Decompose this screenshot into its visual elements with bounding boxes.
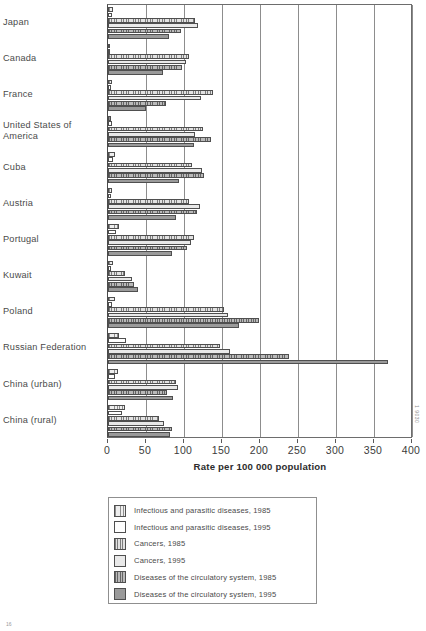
- category-label-portugal: Portugal: [3, 234, 39, 245]
- x-tick-label-350: 350: [364, 444, 382, 456]
- bar: [108, 396, 173, 401]
- bar: [108, 251, 172, 256]
- x-tick-label-150: 150: [212, 444, 230, 456]
- x-tick-label-0: 0: [104, 444, 110, 456]
- bar: [108, 338, 126, 343]
- legend-swatch: [114, 538, 126, 550]
- bar: [108, 405, 125, 410]
- bar: [108, 168, 202, 173]
- bar-groups: [108, 5, 411, 437]
- bar: [108, 432, 170, 437]
- bar: [108, 318, 259, 323]
- bar: [108, 85, 111, 90]
- bar: [108, 354, 289, 359]
- legend-item: Infectious and parasitic diseases, 1985: [114, 502, 271, 519]
- bar-group: [108, 77, 411, 113]
- bar: [108, 137, 211, 142]
- bar: [108, 230, 116, 235]
- bar: [108, 163, 192, 168]
- bar: [108, 70, 163, 75]
- x-tick-200: [259, 439, 260, 443]
- bar: [108, 411, 122, 416]
- category-label-russian-federation: Russian Federation: [3, 342, 86, 353]
- bar-group: [108, 367, 411, 403]
- bar: [108, 199, 189, 204]
- bar: [108, 360, 388, 365]
- x-tick-100: [183, 439, 184, 443]
- bar: [108, 204, 200, 209]
- bar: [108, 188, 112, 193]
- bar: [108, 349, 230, 354]
- bar: [108, 297, 115, 302]
- legend-swatch: [114, 555, 126, 567]
- bar: [108, 49, 110, 54]
- bar: [108, 34, 169, 39]
- category-label-japan: Japan: [3, 17, 29, 28]
- bar: [108, 307, 224, 312]
- bar: [108, 246, 187, 251]
- bar-group: [108, 258, 411, 294]
- legend-label: Cancers, 1985: [134, 539, 185, 548]
- legend-swatch: [114, 505, 126, 517]
- bar-group: [108, 331, 411, 367]
- bar: [108, 152, 115, 157]
- plot-area-wrapper: JapanCanadaFranceUnited States of Americ…: [0, 0, 426, 470]
- bar-group: [108, 186, 411, 222]
- category-label-united-states-of: United States of America: [3, 120, 72, 141]
- bar-group: [108, 294, 411, 330]
- bar: [108, 96, 201, 101]
- bar: [108, 282, 134, 287]
- bar: [108, 302, 112, 307]
- bar-group: [108, 222, 411, 258]
- legend-swatch: [114, 588, 126, 600]
- bar-group: [108, 403, 411, 439]
- bar: [108, 235, 194, 240]
- bar: [108, 106, 146, 111]
- bar: [108, 194, 111, 199]
- bar: [108, 23, 198, 28]
- bar: [108, 80, 112, 85]
- bar-group: [108, 5, 411, 41]
- category-label-france: France: [3, 89, 33, 100]
- chart-root: JapanCanadaFranceUnited States of Americ…: [0, 0, 426, 631]
- bar: [108, 18, 195, 23]
- legend-swatch: [114, 571, 126, 583]
- bar: [108, 65, 182, 70]
- x-tick-label-100: 100: [174, 444, 192, 456]
- x-tick-400: [411, 439, 412, 443]
- bar: [108, 60, 186, 65]
- category-label-poland: Poland: [3, 306, 33, 317]
- bar: [108, 427, 172, 432]
- bar: [108, 277, 132, 282]
- legend-item: Diseases of the circulatory system, 1995: [114, 586, 276, 603]
- category-label-cuba: Cuba: [3, 162, 26, 173]
- bar: [108, 390, 167, 395]
- bar: [108, 323, 239, 328]
- page-number: 16: [6, 621, 12, 627]
- bar: [108, 121, 112, 126]
- legend-item: Cancers, 1985: [114, 535, 185, 552]
- bar: [108, 157, 113, 162]
- bar: [108, 374, 115, 379]
- bar: [108, 421, 164, 426]
- bar-group: [108, 150, 411, 186]
- bar: [108, 143, 194, 148]
- x-tick-label-200: 200: [250, 444, 268, 456]
- bar: [108, 7, 113, 12]
- legend-item: Diseases of the circulatory system, 1985: [114, 569, 276, 586]
- bar: [108, 44, 110, 49]
- bar: [108, 179, 179, 184]
- legend-item: Cancers, 1995: [114, 552, 185, 569]
- bar: [108, 261, 113, 266]
- x-tick-250: [297, 439, 298, 443]
- x-tick-label-50: 50: [139, 444, 151, 456]
- bar: [108, 90, 213, 95]
- category-label-canada: Canada: [3, 53, 36, 64]
- bar: [108, 127, 203, 132]
- bar: [108, 369, 118, 374]
- plot-area: [107, 4, 412, 438]
- bar: [108, 344, 220, 349]
- x-tick-0: [107, 439, 108, 443]
- bar: [108, 333, 119, 338]
- x-tick-label-250: 250: [288, 444, 306, 456]
